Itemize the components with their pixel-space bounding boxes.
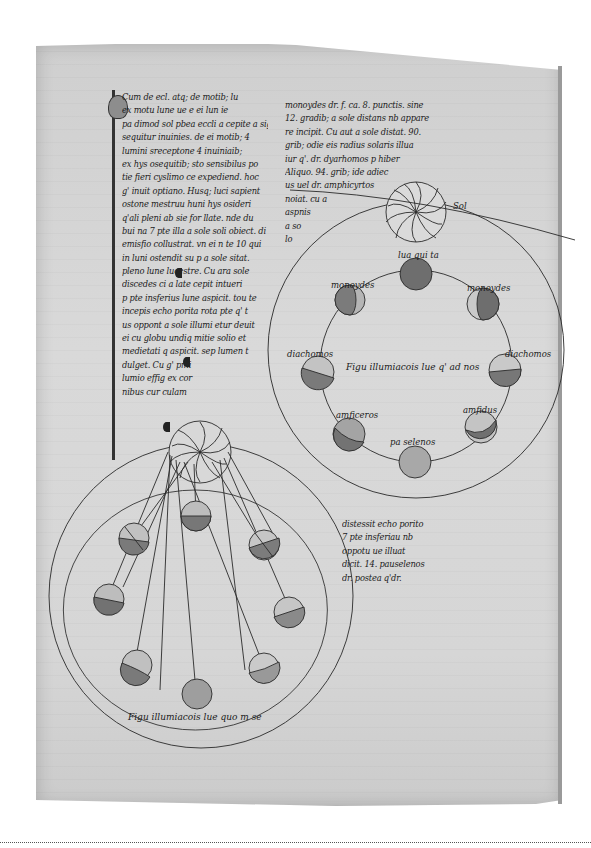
text-line: ex motu lune ue e ei lun ie bbox=[122, 104, 268, 117]
left-text-column: Cum de ecl. atq; de motib; lu ex motu lu… bbox=[122, 91, 268, 399]
text-line: incepis echo porita rota pte q' t bbox=[122, 305, 268, 318]
text-line: dicit. 14. pauselenos bbox=[342, 558, 452, 571]
paragraph-mark-icon bbox=[183, 357, 190, 367]
marginal-rubric-bar bbox=[112, 90, 115, 460]
text-line: us oppont a sole illumi etur deuit bbox=[122, 319, 268, 332]
text-line: lumio effig ex cor bbox=[122, 372, 268, 385]
text-line: re incipit. Cu aut a sole distat. 90. bbox=[285, 126, 435, 139]
text-line: monoydes dr. f. ca. 8. punctis. sine bbox=[285, 99, 435, 112]
text-line: emisfio collustrat. vn ei n te 10 qui bbox=[122, 238, 268, 251]
phase-label-amficeros: amficeros bbox=[336, 410, 378, 420]
text-line: 12. gradib; a sole distans nb appare bbox=[285, 112, 435, 125]
text-line: grib; odie eis radius solaris illua bbox=[285, 139, 435, 152]
text-line: medietati q aspicit. sep lumen t bbox=[122, 345, 268, 358]
text-line: pa dimod sol pbea eccli a cepite a sign bbox=[122, 118, 268, 131]
text-line: iur q'. dr. dyarhomos p hiber bbox=[285, 153, 435, 166]
bottom-right-text-column: distessit echo porito 7 pte insferiau nb… bbox=[342, 518, 452, 585]
text-line: p pte insferius lune aspicit. tou te bbox=[122, 292, 268, 305]
phase-label-amfidus: amfidus bbox=[463, 405, 497, 415]
phase-label-diachomos-right: diachomos bbox=[505, 349, 551, 359]
footer-dotted-rule bbox=[0, 842, 591, 843]
diagram-caption-left: Figu illumiacois lue quo m se bbox=[128, 712, 262, 722]
text-line: nibus cur culam bbox=[122, 386, 268, 399]
text-line: discedes ci a late cepit intueri bbox=[122, 278, 268, 291]
text-line: 7 pte insferiau nb bbox=[342, 531, 452, 544]
paragraph-mark-icon bbox=[163, 422, 170, 432]
text-line: a so bbox=[285, 220, 435, 233]
text-line: distessit echo porito bbox=[342, 518, 452, 531]
text-line: Aliquo. 94. grib; ide adiec bbox=[285, 166, 435, 179]
phase-label-pa-selenos: pa selenos bbox=[390, 437, 435, 447]
text-line: dulget. Cu g' pmi bbox=[122, 359, 268, 372]
text-line: aspnis bbox=[285, 206, 435, 219]
text-line: sequitur inuinies. de ei motib; 4 bbox=[122, 131, 268, 144]
text-line: q'ali pleni ab sie for llate. nde du bbox=[122, 212, 268, 225]
text-line: noiat. cu a bbox=[285, 193, 435, 206]
page-edge bbox=[558, 66, 562, 804]
text-line: us uel dr. amphicyrtos bbox=[285, 179, 435, 192]
text-line: ex hys osequitib; sto sensibilus po bbox=[122, 158, 268, 171]
text-line: lumini sreceptone 4 inuiniaib; bbox=[122, 145, 268, 158]
text-line: Cum de ecl. atq; de motib; lu bbox=[122, 91, 268, 104]
phase-label-monoydes-right: monoydes bbox=[467, 283, 510, 293]
phase-label-new: lua qui ta bbox=[398, 250, 439, 260]
phase-label-monoydes-left: monoydes bbox=[331, 280, 374, 290]
text-line: dr. postea q'dr. bbox=[342, 572, 452, 585]
phase-label-diachomos-left: diachomos bbox=[287, 349, 333, 359]
text-line: bui na 7 pte illa a sole soli obiect. di bbox=[122, 225, 268, 238]
text-line: lo bbox=[285, 233, 435, 246]
diagram-caption-right: Figu illumiacois lue q' ad nos bbox=[346, 362, 479, 372]
text-line: in luni ostendit su p a sole sitat. bbox=[122, 252, 268, 265]
right-text-column: monoydes dr. f. ca. 8. punctis. sine 12.… bbox=[285, 99, 435, 246]
text-line: oppotu ue illuat bbox=[342, 545, 452, 558]
text-line: tie fieri cyslimo ce expediend. hoc bbox=[122, 171, 268, 184]
text-line: ostone mestruu huni hys osideri bbox=[122, 198, 268, 211]
text-line: pleno lune lucestre. Cu ara sole bbox=[122, 265, 268, 278]
text-line: ei cu globu undiq mitie solio et bbox=[122, 332, 268, 345]
text-line: g' inuit optiano. Husq; luci sapient bbox=[122, 185, 268, 198]
sun-label: Sol bbox=[453, 201, 467, 211]
paragraph-mark-icon bbox=[175, 268, 182, 278]
